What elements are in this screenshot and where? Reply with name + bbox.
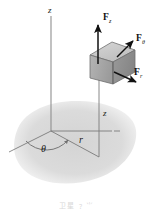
force-theta-subscript: θ	[142, 39, 145, 45]
ground-plane-shadow	[14, 101, 136, 184]
figure-caption: 卫星 ﹖ ⺌	[0, 200, 153, 210]
force-r-subscript: r	[140, 73, 143, 79]
height-z-label: z	[102, 108, 107, 118]
axis-z-label: z	[47, 5, 52, 15]
figure-container: z z r θ F z F θ F r 卫星 ﹖ ⺌	[0, 0, 153, 211]
force-z-subscript: z	[108, 18, 112, 24]
cylindrical-coordinates-diagram: z z r θ F z F θ F r	[0, 0, 153, 211]
radius-r-label: r	[79, 134, 83, 145]
angle-theta-label: θ	[41, 143, 46, 154]
